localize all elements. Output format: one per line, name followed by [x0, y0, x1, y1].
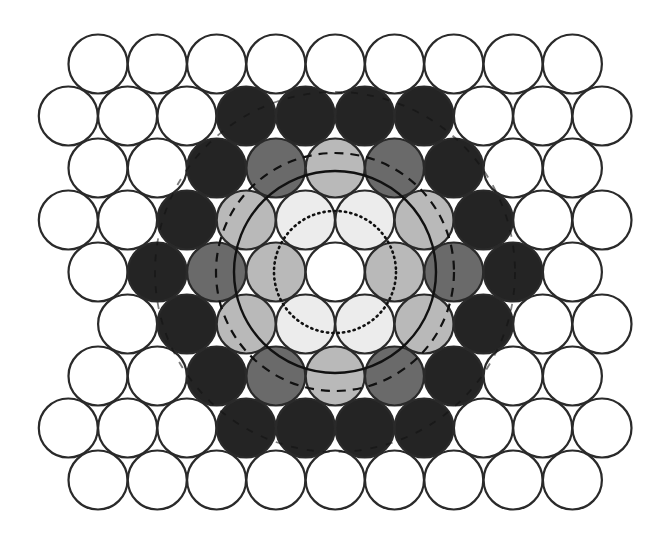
atom-unshaded — [128, 451, 187, 510]
atom-fourth-shell — [187, 347, 246, 406]
atom-unshaded — [484, 451, 543, 510]
atom-unshaded — [246, 451, 305, 510]
atom-unshaded — [543, 451, 602, 510]
atom-third-shell — [365, 347, 424, 406]
atom-second-shell — [246, 243, 305, 302]
atom-unshaded — [513, 399, 572, 458]
atom-unshaded — [424, 451, 483, 510]
atom-unshaded — [157, 87, 216, 146]
atom-unshaded — [573, 399, 632, 458]
atom-second-shell — [365, 243, 424, 302]
atom-unshaded — [98, 399, 157, 458]
atom-unshaded — [454, 87, 513, 146]
atom-unshaded — [484, 139, 543, 198]
atom-unshaded — [543, 243, 602, 302]
atom-unshaded — [98, 191, 157, 250]
atom-unshaded — [39, 87, 98, 146]
atom-second-shell — [217, 191, 276, 250]
atom-unshaded — [306, 451, 365, 510]
atom-unshaded — [157, 399, 216, 458]
atom-second-shell — [306, 139, 365, 198]
atom-unshaded — [39, 191, 98, 250]
atom-fourth-shell — [157, 191, 216, 250]
atom-unshaded — [454, 399, 513, 458]
atom-second-shell — [217, 295, 276, 354]
atom-unshaded — [424, 35, 483, 94]
atom-unshaded — [365, 35, 424, 94]
atom-unshaded — [128, 35, 187, 94]
atom-third-shell — [365, 139, 424, 198]
atom-fourth-shell — [187, 139, 246, 198]
atom-unshaded — [543, 347, 602, 406]
atom-unshaded — [306, 35, 365, 94]
atom-unshaded — [543, 139, 602, 198]
atom-unshaded — [187, 451, 246, 510]
packing-diagram — [0, 0, 669, 537]
atom-fourth-shell — [395, 87, 454, 146]
atom-fourth-shell — [276, 399, 335, 458]
atom-unshaded — [513, 191, 572, 250]
atom-unshaded — [246, 35, 305, 94]
atom-first-shell — [276, 295, 335, 354]
atom-fourth-shell — [335, 399, 394, 458]
atom-fourth-shell — [454, 191, 513, 250]
atom-fourth-shell — [217, 399, 276, 458]
atom-first-shell — [335, 295, 394, 354]
atom-unshaded — [365, 451, 424, 510]
atom-unshaded — [513, 87, 572, 146]
atom-unshaded — [513, 295, 572, 354]
atom-fourth-shell — [395, 399, 454, 458]
atom-fourth-shell — [454, 295, 513, 354]
atom-second-shell — [306, 347, 365, 406]
atom-unshaded — [484, 35, 543, 94]
atom-fourth-shell — [276, 87, 335, 146]
atom-unshaded — [543, 35, 602, 94]
atom-fourth-shell — [424, 347, 483, 406]
atom-unshaded — [98, 295, 157, 354]
atom-unshaded — [573, 295, 632, 354]
atom-fourth-shell — [157, 295, 216, 354]
packing-diagram-canvas — [0, 0, 669, 537]
atom-layer — [39, 35, 632, 510]
atom-unshaded — [69, 139, 128, 198]
atom-unshaded — [573, 87, 632, 146]
atom-unshaded — [128, 347, 187, 406]
atom-first-shell — [276, 191, 335, 250]
atom-unshaded — [128, 139, 187, 198]
atom-fourth-shell — [424, 139, 483, 198]
atom-unshaded — [69, 347, 128, 406]
atom-unshaded — [98, 87, 157, 146]
atom-unshaded — [69, 243, 128, 302]
atom-fourth-shell — [335, 87, 394, 146]
atom-fourth-shell — [128, 243, 187, 302]
atom-unshaded — [573, 191, 632, 250]
atom-unshaded — [39, 399, 98, 458]
atom-unshaded — [69, 35, 128, 94]
atom-unshaded — [69, 451, 128, 510]
atom-central-atom — [306, 243, 365, 302]
atom-unshaded — [187, 35, 246, 94]
atom-unshaded — [484, 347, 543, 406]
